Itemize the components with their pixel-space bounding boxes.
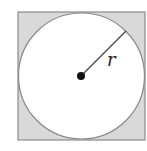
inscribed-circle-diagram: r — [0, 0, 147, 151]
radius-label: r — [107, 49, 117, 70]
center-point — [77, 72, 85, 80]
